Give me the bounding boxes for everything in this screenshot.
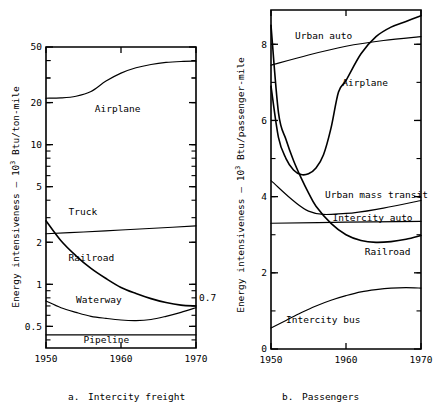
caption-letter-a: a. xyxy=(68,391,79,402)
series-label-airplane: Airplane xyxy=(342,77,388,88)
y-tick-label: 1 xyxy=(36,279,42,290)
y-tick-label: 50 xyxy=(31,41,43,52)
y-axis-title-text-b: Energy intensiveness – 103 Btu/passenger… xyxy=(234,57,246,313)
caption-text-a: Intercity freight xyxy=(88,391,185,402)
x-tick-label: 1950 xyxy=(260,354,283,365)
caption-b: b. Passengers xyxy=(282,391,359,402)
y-axis-title-tail-b: Btu/passenger-mile xyxy=(235,57,246,166)
caption-text-b: Passengers xyxy=(302,391,359,402)
y-axis-title-tail-a: Btu/ton-mile xyxy=(10,86,21,161)
y-tick-label: 8 xyxy=(261,39,267,50)
y-axis-title-text-a: Energy intensiveness – 103 Btu/ton-mile xyxy=(9,86,21,308)
series-labels-a: AirplaneTruckRailroadWaterwayPipeline xyxy=(69,103,141,344)
caption-a: a. Intercity freight xyxy=(68,391,185,402)
series-label-intercity-bus: Intercity bus xyxy=(286,314,360,325)
series-labels-b: Urban autoAirplaneUrban mass transitInte… xyxy=(286,30,428,324)
series-label-intercity-auto: Intercity auto xyxy=(333,212,413,223)
x-tick-labels-a: 195019601970 xyxy=(35,353,208,364)
y-tick-label: 2 xyxy=(36,237,42,248)
series-label-railroad: Railroad xyxy=(365,246,411,257)
y-axis-title-a: Energy intensiveness – 103 Btu/ton-mile xyxy=(9,86,21,308)
series-label-airplane: Airplane xyxy=(95,103,141,114)
series-label-railroad: Railroad xyxy=(69,252,115,263)
y-tick-labels-a: 0.5125102050 xyxy=(25,41,42,331)
y-tick-label: 5 xyxy=(36,181,42,192)
chart-panel-intercity-freight: 0.5125102050 195019601970 AirplaneTruckR… xyxy=(0,0,225,414)
series-label-truck: Truck xyxy=(69,206,98,217)
y-axis-title-b: Energy intensiveness – 103 Btu/passenger… xyxy=(234,57,246,313)
plot-frame-b xyxy=(271,10,421,349)
y-tick-label: 4 xyxy=(261,191,267,202)
y-tick-label: 20 xyxy=(31,97,43,108)
figure-energy-intensiveness: 0.5125102050 195019601970 AirplaneTruckR… xyxy=(0,0,441,414)
y-tick-label: 0 xyxy=(261,343,267,354)
chart-panel-passengers: 02468 195019601970 Urban autoAirplaneUrb… xyxy=(225,0,441,414)
y-tick-labels-b: 02468 xyxy=(261,39,267,355)
x-tick-label: 1960 xyxy=(335,354,358,365)
y-axis-title-main-a: Energy intensiveness – 10 xyxy=(10,164,21,307)
x-tick-label: 1970 xyxy=(185,353,208,364)
series-curves-b xyxy=(271,16,421,328)
chart-svg-b: 02468 195019601970 Urban autoAirplaneUrb… xyxy=(225,0,441,414)
y-tick-label: 6 xyxy=(261,115,267,126)
series-label-pipeline: Pipeline xyxy=(84,334,130,345)
end-annotation-a: 0.7 xyxy=(199,292,216,303)
y-axis-title-main-b: Energy intensiveness – 10 xyxy=(235,170,246,313)
series-label-waterway: Waterway xyxy=(76,294,122,305)
annotation-0point7: 0.7 xyxy=(199,292,216,303)
y-tick-label: 10 xyxy=(31,139,43,150)
axis-ticks-b xyxy=(271,10,421,349)
series-label-urban-mass-transit: Urban mass transit xyxy=(325,189,428,200)
caption-letter-b: b. xyxy=(282,391,293,402)
series-curve-truck xyxy=(46,226,196,234)
series-curve-airplane xyxy=(46,61,196,98)
x-tick-label: 1960 xyxy=(110,353,133,364)
y-tick-label: 0.5 xyxy=(25,321,42,332)
series-curve-railroad xyxy=(271,25,421,242)
x-tick-label: 1970 xyxy=(410,354,433,365)
chart-svg-a: 0.5125102050 195019601970 AirplaneTruckR… xyxy=(0,0,225,414)
y-tick-label: 2 xyxy=(261,267,267,278)
series-label-urban-auto: Urban auto xyxy=(295,30,352,41)
x-tick-labels-b: 195019601970 xyxy=(260,354,433,365)
x-tick-label: 1950 xyxy=(35,353,58,364)
